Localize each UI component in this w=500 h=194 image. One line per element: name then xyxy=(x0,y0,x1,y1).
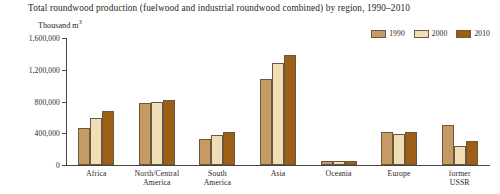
x-axis-label: Asia xyxy=(271,169,286,178)
legend-label-2000: 2000 xyxy=(432,29,448,38)
bar-2000[interactable] xyxy=(454,146,466,165)
x-axis-label: North/Central America xyxy=(135,169,180,187)
y-tick-label: 1,200,000 xyxy=(29,65,60,74)
chart-legend: 1990 2000 2010 xyxy=(371,29,490,38)
bar-1990[interactable] xyxy=(139,103,151,165)
bar-group: Africa xyxy=(66,38,127,165)
plot-area: 1,600,0001,200,000800,000400,0000 Africa… xyxy=(66,38,490,165)
legend-swatch-2000 xyxy=(414,30,429,38)
x-axis-label: Oceania xyxy=(325,169,351,178)
y-tick-label: 1,600,000 xyxy=(29,34,60,43)
y-axis-unit-label: Thousand m3 xyxy=(38,21,82,30)
bar-2000[interactable] xyxy=(272,63,284,165)
chart-title: Total roundwood production (fuelwood and… xyxy=(28,3,410,13)
bar-1990[interactable] xyxy=(321,161,333,165)
legend-label-2010: 2010 xyxy=(474,29,490,38)
bar-group: North/Central America xyxy=(127,38,188,165)
bar-1990[interactable] xyxy=(442,125,454,165)
bar-group: South America xyxy=(187,38,248,165)
x-axis-label: Europe xyxy=(388,169,411,178)
bar-2000[interactable] xyxy=(393,134,405,165)
legend-swatch-2010 xyxy=(456,30,471,38)
bar-group: Oceania xyxy=(308,38,369,165)
y-axis-unit-text: Thousand m xyxy=(38,21,79,30)
bar-1990[interactable] xyxy=(199,139,211,165)
y-axis-unit-exponent: 3 xyxy=(79,19,82,25)
bar-2000[interactable] xyxy=(211,135,223,165)
bar-2010[interactable] xyxy=(466,141,478,165)
legend-label-1990: 1990 xyxy=(389,29,405,38)
legend-item-2010[interactable]: 2010 xyxy=(456,29,490,38)
x-axis-label: Africa xyxy=(86,169,107,178)
y-tick-label: 800,000 xyxy=(35,97,60,106)
bar-group: Asia xyxy=(248,38,309,165)
bar-group: Europe xyxy=(369,38,430,165)
bar-2000[interactable] xyxy=(90,118,102,165)
x-axis-label: South America xyxy=(202,169,232,187)
bar-2010[interactable] xyxy=(223,132,235,165)
bar-1990[interactable] xyxy=(381,132,393,165)
bar-2010[interactable] xyxy=(405,132,417,165)
legend-item-1990[interactable]: 1990 xyxy=(371,29,405,38)
x-axis-label: former USSR xyxy=(445,169,475,187)
bar-2000[interactable] xyxy=(333,161,345,165)
legend-swatch-1990 xyxy=(371,30,386,38)
legend-item-2000[interactable]: 2000 xyxy=(414,29,448,38)
y-tick-label: 400,000 xyxy=(35,129,60,138)
y-tick-mark xyxy=(62,165,66,166)
bar-2010[interactable] xyxy=(102,111,114,165)
bar-2010[interactable] xyxy=(163,100,175,165)
bar-2010[interactable] xyxy=(284,55,296,165)
bar-group: former USSR xyxy=(429,38,490,165)
bar-1990[interactable] xyxy=(260,79,272,165)
bar-2010[interactable] xyxy=(345,161,357,165)
bar-2000[interactable] xyxy=(151,102,163,165)
bar-1990[interactable] xyxy=(78,128,90,165)
chart-figure: Total roundwood production (fuelwood and… xyxy=(0,0,500,194)
y-tick-label: 0 xyxy=(56,161,60,170)
